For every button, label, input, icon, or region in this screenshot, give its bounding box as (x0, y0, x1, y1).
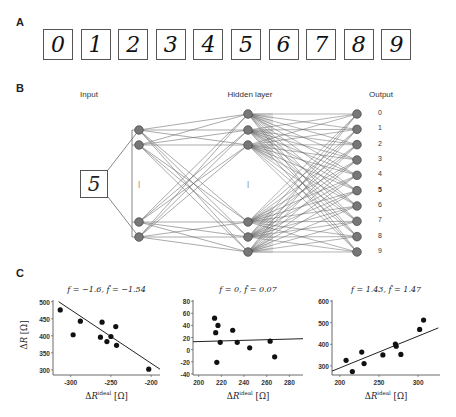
data-point (98, 335, 103, 340)
data-point (235, 340, 240, 345)
y-tick-label: 40 (183, 322, 190, 329)
x-tick-label: 280 (284, 379, 295, 386)
data-point (272, 354, 277, 359)
y-tick-label: 350 (39, 349, 50, 356)
x-tick-label: 200 (193, 379, 204, 386)
x-axis-label: ΔRideal [Ω] (365, 390, 408, 401)
y-tick-label: 300 (318, 362, 329, 369)
y-tick-label: 500 (318, 319, 329, 326)
data-point (398, 352, 403, 357)
x-tick-label: 260 (261, 379, 272, 386)
data-point (71, 332, 76, 337)
y-tick-label: 0 (186, 346, 190, 353)
data-point (359, 349, 364, 354)
data-point (247, 345, 252, 350)
x-axis-label: ΔRideal [Ω] (227, 390, 270, 401)
x-tick-label: 200 (334, 379, 345, 386)
data-point (417, 327, 422, 332)
x-tick-label: -200 (145, 379, 158, 386)
data-point (218, 340, 223, 345)
data-point (361, 361, 366, 366)
data-point (421, 318, 426, 323)
x-tick-label: 300 (413, 379, 424, 386)
plot-title: f = −1.6, f̂ = −1.54 (67, 285, 146, 294)
y-tick-label: 20 (183, 334, 190, 341)
y-tick-label: 600 (318, 298, 329, 305)
data-point (268, 339, 273, 344)
data-point (380, 352, 385, 357)
data-point (343, 358, 348, 363)
data-point (114, 343, 119, 348)
data-point (214, 360, 219, 365)
x-axis-label: ΔRideal [Ω] (85, 390, 128, 401)
y-tick-label: -40 (181, 370, 190, 377)
y-tick-label: 500 (39, 298, 50, 305)
data-point (350, 369, 355, 374)
y-tick-label: 300 (39, 366, 50, 373)
data-point (394, 344, 399, 349)
y-tick-label: 60 (183, 310, 190, 317)
data-point (215, 323, 220, 328)
x-tick-label: 250 (374, 379, 385, 386)
plot-title: f = 0, f̂ = 0.07 (219, 285, 277, 294)
y-axis-label: ΔR [Ω] (19, 321, 29, 350)
data-point (213, 330, 218, 335)
data-point (104, 339, 109, 344)
data-point (212, 316, 217, 321)
data-point (99, 320, 104, 325)
y-tick-label: 450 (39, 315, 50, 322)
data-point (146, 367, 151, 372)
x-tick-label: -300 (64, 379, 77, 386)
x-tick-label: 240 (239, 379, 250, 386)
plot-title: f = 1.43, f̂ = 1.47 (351, 285, 421, 294)
data-point (108, 334, 113, 339)
x-tick-label: 220 (216, 379, 227, 386)
data-point (58, 307, 63, 312)
y-tick-label: -20 (181, 358, 190, 365)
y-tick-label: 80 (183, 298, 190, 305)
y-tick-label: 400 (318, 341, 329, 348)
x-tick-label: -250 (104, 379, 117, 386)
data-point (113, 324, 118, 329)
scatter-plots (0, 0, 456, 417)
data-point (230, 328, 235, 333)
y-tick-label: 400 (39, 332, 50, 339)
data-point (78, 319, 83, 324)
